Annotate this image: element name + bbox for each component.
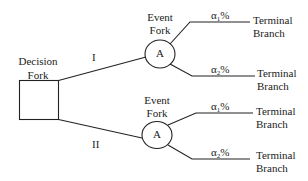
decision-fork-square xyxy=(20,81,59,120)
event-node-letter-lower: A xyxy=(147,128,167,140)
event-label-line2: Fork xyxy=(137,107,177,119)
event-fork-label-upper: Event Fork xyxy=(140,11,180,36)
probability-label-I-1: α1% xyxy=(211,9,229,25)
event-label-line2: Fork xyxy=(140,24,180,36)
event-label-line1: Event xyxy=(137,94,177,106)
percent-sign: % xyxy=(220,146,229,158)
percent-sign: % xyxy=(220,63,229,75)
event-node-letter-upper: A xyxy=(150,47,170,59)
probability-label-II-1: α1% xyxy=(211,100,229,116)
branch-II-line xyxy=(59,120,143,139)
terminal-branch-I-2: Terminal Branch xyxy=(257,67,297,93)
decision-label-line2: Fork xyxy=(12,69,64,81)
event-fork-label-lower: Event Fork xyxy=(137,94,177,119)
terminal-branch-I-1: Terminal Branch xyxy=(253,14,293,40)
probability-label-I-2: α2% xyxy=(211,63,229,79)
outcome-line-II-2 xyxy=(168,145,250,159)
terminal-branch-II-2: Terminal Branch xyxy=(256,149,296,175)
terminal-branch-II-1: Terminal Branch xyxy=(256,105,296,131)
terminal-line2: Branch xyxy=(256,118,296,131)
percent-sign: % xyxy=(220,9,229,21)
branch-II-label: II xyxy=(92,138,99,150)
terminal-line1: Terminal xyxy=(256,105,296,118)
event-label-line1: Event xyxy=(140,11,180,23)
branch-I-line xyxy=(59,57,147,81)
terminal-line2: Branch xyxy=(257,80,297,93)
probability-label-II-2: α2% xyxy=(211,146,229,162)
terminal-line2: Branch xyxy=(256,162,296,175)
terminal-line1: Terminal xyxy=(256,149,296,162)
decision-fork-label: Decision Fork xyxy=(12,55,64,81)
decision-label-line1: Decision xyxy=(12,55,64,67)
outcome-line-I-1 xyxy=(170,22,250,44)
branch-I-label: I xyxy=(92,51,96,63)
terminal-line1: Terminal xyxy=(253,14,293,27)
percent-sign: % xyxy=(220,100,229,112)
terminal-line1: Terminal xyxy=(257,67,297,80)
terminal-line2: Branch xyxy=(253,27,293,40)
